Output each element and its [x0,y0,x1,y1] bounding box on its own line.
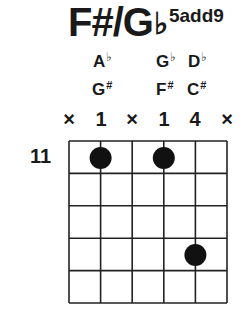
finger-dot-string-2-fret-1 [90,147,112,169]
finger-dot-string-5-fret-4 [184,244,206,266]
fretboard-grid [0,0,249,320]
finger-dot-string-4-fret-1 [153,147,175,169]
